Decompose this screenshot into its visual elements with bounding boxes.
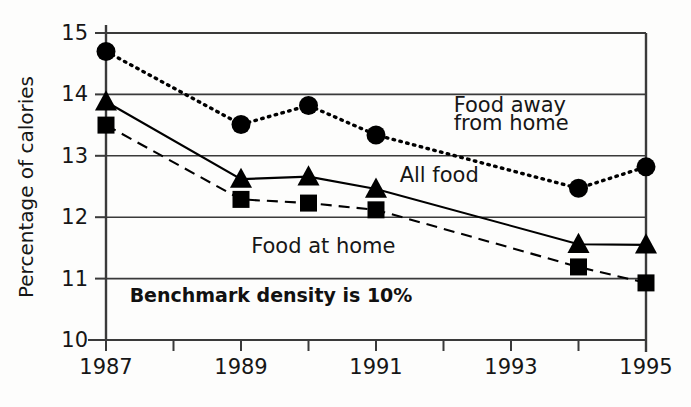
marker-square-1995	[638, 274, 655, 291]
y-tick-label-14: 14	[61, 82, 88, 106]
x-tick-label-1987: 1987	[79, 355, 132, 379]
y-tick-label-15: 15	[61, 21, 88, 45]
marker-square-1994	[570, 258, 587, 275]
marker-square-1991	[368, 201, 385, 218]
x-axis-ticks: 19871989199119931995	[79, 340, 672, 379]
chart-canvas: 101112131415 19871989199119931995 Food a…	[0, 0, 691, 407]
y-tick-label-12: 12	[61, 205, 88, 229]
label-food-at-home: Food at home	[251, 234, 395, 258]
marker-square-1989	[233, 191, 250, 208]
marker-square-1987	[98, 117, 115, 134]
label-benchmark-note: Benchmark density is 10%	[130, 284, 413, 306]
x-tick-label-1991: 1991	[349, 355, 402, 379]
y-axis-title: Percentage of calories	[14, 76, 38, 298]
marker-circle-1990	[299, 96, 318, 115]
label-food-away-line2: from home	[454, 111, 569, 135]
marker-square-1990	[300, 195, 317, 212]
y-tick-label-10: 10	[61, 328, 88, 352]
marker-circle-1991	[367, 125, 386, 144]
x-tick-label-1995: 1995	[619, 355, 672, 379]
label-all-food: All food	[400, 163, 479, 187]
chart-figure: 101112131415 19871989199119931995 Food a…	[0, 0, 691, 407]
y-tick-label-13: 13	[61, 144, 88, 168]
x-tick-label-1993: 1993	[484, 355, 537, 379]
marker-circle-1994	[569, 179, 588, 198]
marker-circle-1995	[637, 157, 656, 176]
marker-circle-1989	[232, 115, 251, 134]
y-tick-label-11: 11	[61, 267, 88, 291]
y-axis-ticks: 101112131415	[61, 21, 106, 352]
x-tick-label-1989: 1989	[214, 355, 267, 379]
marker-circle-1987	[97, 42, 116, 61]
